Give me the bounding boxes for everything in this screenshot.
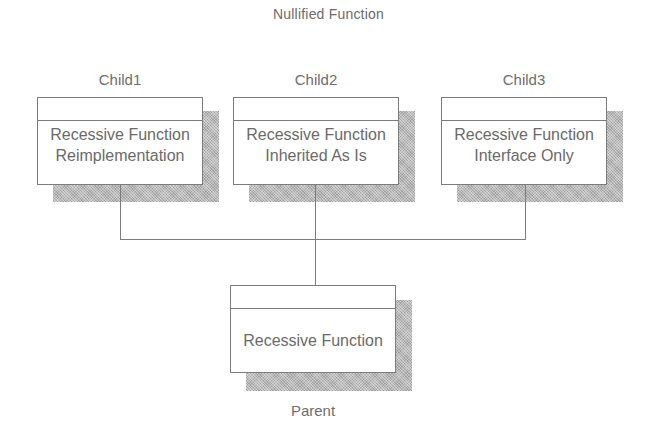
child2-line-2: Inherited As Is: [265, 145, 366, 166]
parent-class-header: [231, 286, 395, 309]
child3-line-2: Interface Only: [474, 145, 574, 166]
parent-label: Parent: [230, 402, 396, 419]
child3-label: Child3: [441, 71, 607, 88]
child1-class-body: Recessive Function Reimplementation: [38, 121, 202, 166]
child2-label: Child2: [233, 71, 399, 88]
child1-label: Child1: [37, 71, 203, 88]
parent-class-box: Recessive Function: [230, 285, 396, 373]
child1-line-2: Reimplementation: [56, 145, 185, 166]
parent-line-1: Recessive Function: [243, 330, 383, 351]
child3-stem-line: [525, 185, 526, 239]
child3-class-body: Recessive Function Interface Only: [442, 121, 606, 166]
child1-line-1: Recessive Function: [50, 124, 190, 145]
child1-class-box: Recessive Function Reimplementation: [37, 97, 203, 185]
child1-stem-line: [120, 185, 121, 239]
child2-class-box: Recessive Function Inherited As Is: [233, 97, 399, 185]
child1-class-header: [38, 98, 202, 121]
child2-stem-line: [315, 185, 316, 285]
child2-class-body: Recessive Function Inherited As Is: [234, 121, 398, 166]
child3-line-1: Recessive Function: [454, 124, 594, 145]
child2-class-header: [234, 98, 398, 121]
child3-class-header: [442, 98, 606, 121]
parent-class-body: Recessive Function: [231, 309, 395, 371]
child3-class-box: Recessive Function Interface Only: [441, 97, 607, 185]
child2-line-1: Recessive Function: [246, 124, 386, 145]
inheritance-bus-line: [120, 239, 526, 240]
diagram-title: Nullified Function: [0, 6, 657, 22]
